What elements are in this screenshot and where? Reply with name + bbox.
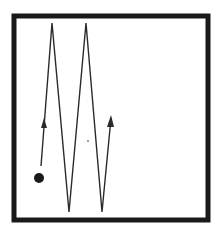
arrowhead-icon bbox=[107, 115, 114, 127]
particle-dot bbox=[34, 173, 44, 183]
stray-dot bbox=[87, 140, 89, 142]
zigzag-trajectory bbox=[41, 23, 111, 212]
bouncing-particle-diagram bbox=[0, 0, 222, 233]
arrowhead-icon bbox=[41, 118, 47, 128]
